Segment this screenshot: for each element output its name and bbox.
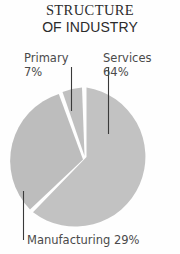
label-primary-value: 7%	[24, 66, 68, 80]
chart-stage: Primary 7% Services 64% Manufacturing 29…	[0, 0, 180, 254]
label-manufacturing: Manufacturing 29%	[27, 234, 140, 248]
label-primary-name: Primary	[24, 51, 68, 65]
label-services: Services 64%	[103, 52, 152, 79]
label-manufacturing-text: Manufacturing 29%	[27, 233, 140, 247]
pie-svg	[0, 0, 180, 254]
label-services-value: 64%	[103, 66, 152, 80]
pie-chart-figure: STRUCTURE OF INDUSTRY Primary 7% Service…	[0, 0, 180, 254]
label-services-name: Services	[103, 51, 152, 65]
label-primary: Primary 7%	[24, 52, 68, 79]
